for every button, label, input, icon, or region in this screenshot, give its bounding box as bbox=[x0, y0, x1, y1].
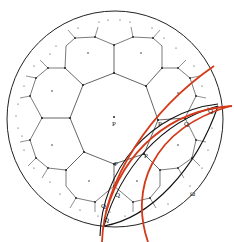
red-arcs bbox=[102, 66, 232, 242]
red-arc-middle bbox=[106, 106, 232, 212]
label-q-1: Q bbox=[208, 107, 213, 115]
label-omega: Ω bbox=[190, 190, 195, 198]
label-q-5: Q bbox=[101, 202, 106, 210]
poincare-disk-diagram: P P P P Q Q Q Q Q Ω bbox=[0, 0, 234, 242]
label-q-4: Q bbox=[104, 216, 109, 224]
label-p-lower: P bbox=[114, 160, 118, 168]
center-point-dot bbox=[113, 116, 115, 118]
label-center-point: P bbox=[112, 120, 116, 128]
label-p-upper: P bbox=[158, 120, 162, 128]
label-q-2: Q bbox=[184, 120, 189, 128]
label-q-3: Q bbox=[115, 191, 120, 199]
label-p-middle: P bbox=[144, 152, 148, 160]
